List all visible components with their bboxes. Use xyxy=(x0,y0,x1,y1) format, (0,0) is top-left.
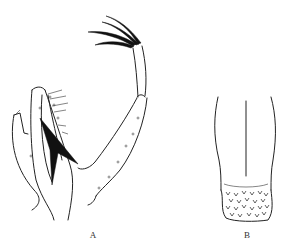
panel-label-b: B xyxy=(237,230,257,240)
claws xyxy=(88,16,141,48)
panel-a-drawing xyxy=(12,16,147,220)
figure-illustration xyxy=(0,0,292,249)
spinules xyxy=(226,191,269,217)
panel-label-a: A xyxy=(83,230,103,240)
panel-b-drawing xyxy=(215,97,276,221)
